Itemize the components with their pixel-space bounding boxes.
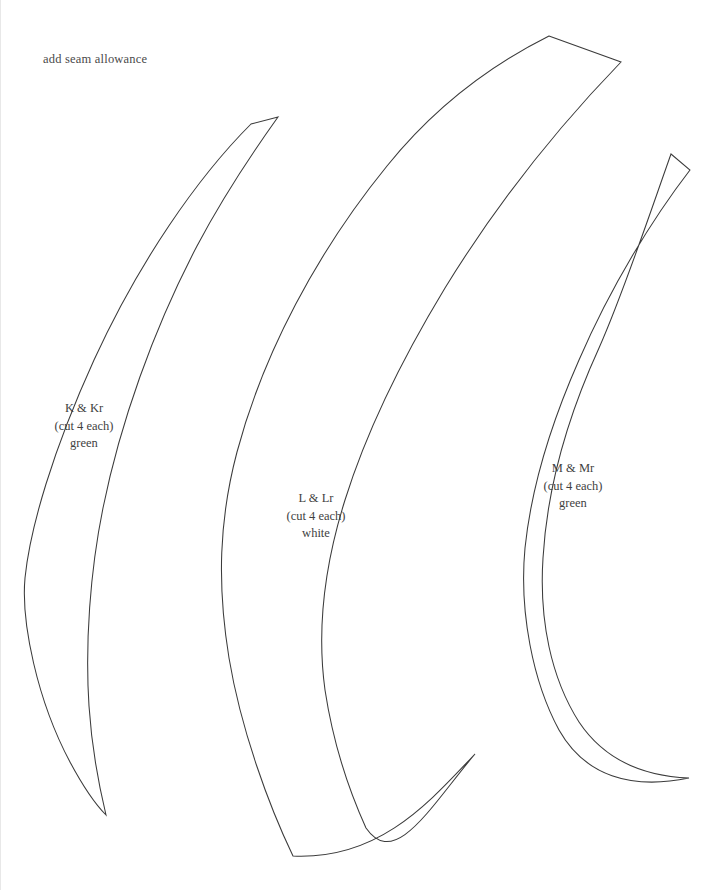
piece-l-name: L & Lr: [287, 490, 346, 508]
pattern-piece-k-label: K & Kr (cut 4 each) green: [55, 400, 114, 453]
piece-m-name: M & Mr: [544, 460, 603, 478]
pattern-piece-l-label: L & Lr (cut 4 each) white: [287, 490, 346, 543]
piece-k-cut: (cut 4 each): [55, 418, 114, 436]
pattern-sheet: add seam allowance K & Kr (cut 4 each) g…: [0, 0, 725, 890]
piece-m-fabric: green: [544, 495, 603, 513]
piece-l-cut: (cut 4 each): [287, 508, 346, 526]
piece-k-fabric: green: [55, 435, 114, 453]
piece-k-name: K & Kr: [55, 400, 114, 418]
piece-m-cut: (cut 4 each): [544, 478, 603, 496]
pattern-piece-m-label: M & Mr (cut 4 each) green: [544, 460, 603, 513]
seam-allowance-note: add seam allowance: [43, 52, 147, 67]
piece-l-fabric: white: [287, 525, 346, 543]
